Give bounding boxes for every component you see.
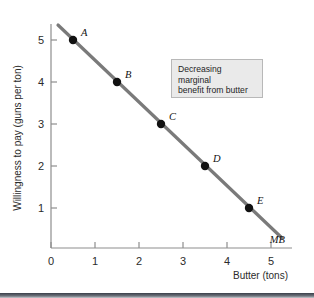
annotation-box: Decreasing marginal benefit from butter [171, 59, 263, 98]
annotation-line-3: benefit from butter [178, 85, 257, 96]
data-point-e [245, 204, 253, 212]
x-tick-label-0: 0 [48, 255, 54, 267]
x-tick-label-5: 5 [268, 255, 274, 267]
mb-curve-label: MB [269, 234, 286, 245]
data-point-label-e: E [256, 195, 264, 206]
y-tick-label-5: 5 [38, 34, 44, 46]
data-point-label-d: D [212, 153, 221, 164]
marginal-benefit-chart: 5 4 3 2 1 0 1 2 3 4 5 Butter (tons) Will… [0, 0, 314, 298]
page-footer-rule [0, 293, 314, 298]
data-point-label-c: C [169, 111, 177, 122]
data-point-b [113, 78, 121, 86]
chart-canvas: 5 4 3 2 1 0 1 2 3 4 5 Butter (tons) Will… [0, 0, 314, 298]
y-tick-label-1: 1 [38, 202, 44, 214]
data-point-c [157, 120, 165, 128]
annotation-line-2: marginal [178, 75, 257, 86]
y-tick-label-2: 2 [38, 160, 44, 172]
y-tick-label-4: 4 [38, 76, 44, 88]
x-tick-label-4: 4 [224, 255, 230, 267]
data-point-label-a: A [80, 27, 88, 38]
data-point-label-b: B [125, 69, 132, 80]
annotation-line-1: Decreasing [178, 64, 257, 75]
y-axis-title: Willingness to pay (guns per ton) [12, 65, 23, 211]
x-tick-label-1: 1 [92, 255, 98, 267]
data-point-d [201, 162, 209, 170]
x-tick-label-3: 3 [180, 255, 186, 267]
x-axis-title: Butter (tons) [233, 270, 288, 281]
y-tick-label-3: 3 [38, 118, 44, 130]
data-point-a [69, 36, 77, 44]
x-tick-label-2: 2 [136, 255, 142, 267]
